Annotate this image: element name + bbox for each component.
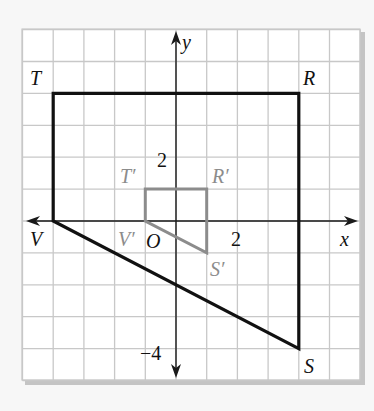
label-R: R <box>302 67 315 89</box>
tick-label-y-2: 2 <box>157 149 167 171</box>
tick-label-y-neg4: −4 <box>140 342 161 364</box>
coordinate-plane-figure: T R S V T′ R′ S′ V′ O x y 2 2 −4 <box>0 0 374 411</box>
label-origin-O: O <box>146 230 160 252</box>
label-T: T <box>30 67 43 89</box>
label-R-prime: R′ <box>211 165 229 187</box>
x-axis-label: x <box>339 228 349 250</box>
y-axis-label: y <box>180 31 191 54</box>
label-V-prime: V′ <box>118 228 135 250</box>
label-S: S <box>304 355 314 377</box>
label-S-prime: S′ <box>210 258 225 280</box>
label-T-prime: T′ <box>120 165 136 187</box>
tick-label-x-2: 2 <box>231 228 241 250</box>
